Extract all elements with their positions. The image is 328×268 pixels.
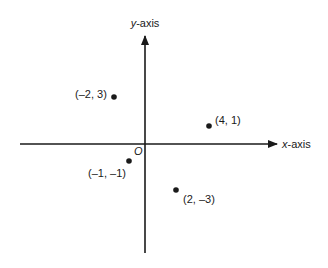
origin-label: O: [134, 145, 143, 157]
point-dot-neg1-neg1: [126, 158, 132, 164]
point-dot-2-neg3: [173, 187, 179, 193]
point-dot-4-1: [206, 123, 212, 129]
point-label-4-1: (4, 1): [215, 114, 241, 126]
point-label-2-neg3: (2, –3): [183, 193, 215, 205]
y-axis-label: y-axis: [130, 17, 160, 29]
point-label-neg1-neg1: (–1, –1): [88, 167, 126, 179]
x-axis-label: x-axis: [281, 138, 311, 150]
coordinate-plane: y-axis x-axis O (–2, 3) (4, 1) (–1, –1) …: [0, 0, 328, 268]
point-label-neg2-3: (–2, 3): [75, 88, 107, 100]
point-dot-neg2-3: [111, 94, 117, 100]
